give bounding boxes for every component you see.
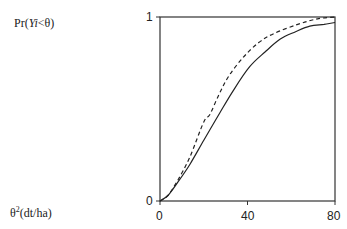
plot-frame bbox=[160, 17, 335, 201]
plot-area bbox=[0, 0, 347, 229]
axis-ticks bbox=[156, 17, 335, 205]
solid-curve bbox=[160, 23, 335, 202]
dashed-curve bbox=[160, 17, 335, 201]
